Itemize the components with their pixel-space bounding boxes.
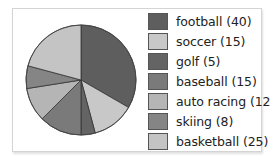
legend-label: football (40) (176, 14, 251, 29)
swatch-soccer (148, 33, 168, 50)
swatch-football (148, 13, 168, 30)
legend: football (40) soccer (15) golf (5) baseb… (148, 12, 270, 152)
legend-label: basketball (25) (176, 134, 268, 149)
legend-label: skiing (8) (176, 114, 233, 129)
legend-item-golf: golf (5) (148, 52, 270, 71)
swatch-auto-racing (148, 93, 168, 110)
legend-item-baseball: baseball (15) (148, 72, 270, 91)
swatch-golf (148, 53, 168, 70)
legend-label: soccer (15) (176, 34, 245, 49)
legend-item-soccer: soccer (15) (148, 32, 270, 51)
legend-item-football: football (40) (148, 12, 270, 31)
swatch-skiing (148, 113, 168, 130)
legend-label: golf (5) (176, 54, 220, 69)
legend-item-basketball: basketball (25) (148, 132, 270, 151)
pie-chart (24, 23, 138, 137)
swatch-baseball (148, 73, 168, 90)
legend-item-skiing: skiing (8) (148, 112, 270, 131)
legend-item-auto-racing: auto racing (12) (148, 92, 270, 111)
legend-label: baseball (15) (176, 74, 257, 89)
swatch-basketball (148, 133, 168, 150)
legend-label: auto racing (12) (176, 94, 270, 109)
